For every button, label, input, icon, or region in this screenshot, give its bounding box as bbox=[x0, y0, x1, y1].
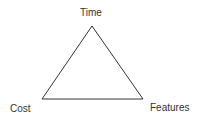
vertex-label-time: Time bbox=[80, 8, 102, 18]
triangle-shape bbox=[42, 26, 143, 99]
vertex-label-cost: Cost bbox=[10, 104, 31, 114]
vertex-label-features: Features bbox=[150, 103, 189, 113]
